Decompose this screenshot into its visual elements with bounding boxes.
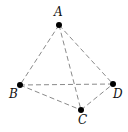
edge-bc	[20, 85, 81, 110]
vertex-a-label: A	[53, 5, 63, 19]
edge-ab	[20, 25, 59, 85]
vertex-d-label: D	[112, 87, 123, 101]
vertex-b-label: B	[8, 87, 18, 101]
vertex-b-dot	[17, 82, 23, 88]
vertex-a-dot	[56, 22, 62, 28]
edges-group	[20, 25, 113, 110]
edge-cd	[81, 84, 113, 110]
tetrahedron-diagram: ABCD	[0, 0, 128, 132]
vertex-c-label: C	[78, 113, 87, 127]
edge-bd	[20, 84, 113, 85]
edge-ad	[59, 25, 113, 84]
labels-group: ABCD	[8, 5, 123, 127]
